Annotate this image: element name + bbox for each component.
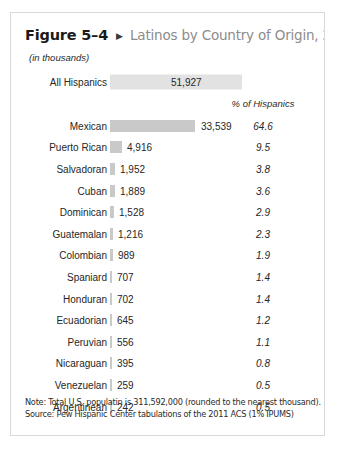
row-bar [110,120,195,132]
row-label: Nicaraguan [11,358,107,369]
figure-footer: Note: Total U.S. populatin is 311,592,00… [25,396,314,421]
row-label: Dominican [11,207,107,218]
row-label: Spaniard [11,271,107,282]
row-bar [110,206,114,218]
row-value: 702 [117,293,134,304]
row-label: Venezuelan [11,379,107,390]
row-percent: 0.8 [233,358,293,369]
row-percent: 2.9 [233,207,293,218]
figure-title: Latinos by Country of Origin, 2011 [130,27,325,43]
row-value: 1,528 [119,207,144,218]
row-percent: 1.9 [233,250,293,261]
row-percent: 9.5 [233,142,293,153]
row-label: Mexican [11,120,107,131]
chart-row: Peruvian5561.1 [11,331,324,353]
row-value: 1,216 [118,228,143,239]
row-label: Cuban [11,185,107,196]
chart-row: Venezuelan2590.5 [11,374,324,396]
row-value: 1,889 [120,185,145,196]
chart-row: Spaniard7071.4 [11,266,324,288]
row-value: 259 [117,379,134,390]
figure-number: Figure 5–4 [25,27,108,43]
row-bar [110,293,112,305]
row-value: 645 [117,315,134,326]
row-label: Ecuadorian [11,315,107,326]
row-label: All Hispanics [11,76,107,87]
row-label: Honduran [11,293,107,304]
chart-row: Cuban1,8893.6 [11,180,324,202]
row-value: 33,539 [201,120,232,131]
row-bar [110,379,112,391]
chart-row: Mexican33,53964.6 [11,115,324,137]
row-percent: 1.4 [233,271,293,282]
row-percent: 1.4 [233,293,293,304]
figure-source: Source: Pew Hispanic Center tabulations … [25,408,314,421]
row-bar [110,228,113,240]
row-bar [110,141,122,153]
chart-rows: Mexican33,53964.6Puerto Rican4,9169.5Sal… [11,115,324,417]
chart-row: Nicaraguan3950.8 [11,353,324,375]
row-label: Salvadoran [11,163,107,174]
figure-card: Figure 5–4 ▶ Latinos by Country of Origi… [10,12,325,436]
figure-header: Figure 5–4 ▶ Latinos by Country of Origi… [11,13,324,43]
row-label: Guatemalan [11,228,107,239]
percent-header-label: % of Hispanics [223,98,303,109]
row-percent: 1.2 [233,315,293,326]
row-label: Colombian [11,250,107,261]
units-note: (in thousands) [11,43,324,63]
row-percent: 1.1 [233,336,293,347]
chart-row: Honduran7021.4 [11,288,324,310]
row-value: 4,916 [127,142,152,153]
row-bar [110,185,115,197]
chart-row: Guatemalan1,2162.3 [11,223,324,245]
row-label: Puerto Rican [11,142,107,153]
percent-column-header: % of Hispanics [11,98,324,115]
row-value: 1,952 [120,163,145,174]
chart-row: Colombian9891.9 [11,245,324,267]
row-bar [110,336,112,348]
row-percent: 0.5 [233,379,293,390]
row-bar [110,271,112,283]
row-percent: 3.6 [233,185,293,196]
row-bar [110,314,112,326]
chart-row: Ecuadorian6451.2 [11,309,324,331]
row-bar [110,357,112,369]
row-value: 989 [118,250,135,261]
row-percent: 2.3 [233,228,293,239]
row-bar [110,249,113,261]
chart-row: Puerto Rican4,9169.5 [11,137,324,159]
row-value: 51,927 [171,76,202,87]
play-triangle-icon: ▶ [116,31,123,41]
row-value: 395 [117,358,134,369]
row-value: 556 [117,336,134,347]
chart-row: Salvadoran1,9523.8 [11,158,324,180]
row-percent: 64.6 [233,120,293,131]
row-label: Peruvian [11,336,107,347]
row-bar [110,163,115,175]
chart-row-total: All Hispanics 51,927 [11,70,324,93]
chart-row: Dominican1,5282.9 [11,201,324,223]
row-value: 707 [117,271,134,282]
figure-note: Note: Total U.S. populatin is 311,592,00… [25,396,314,409]
chart-area: All Hispanics 51,927 % of Hispanics Mexi… [11,70,324,417]
row-percent: 3.8 [233,163,293,174]
